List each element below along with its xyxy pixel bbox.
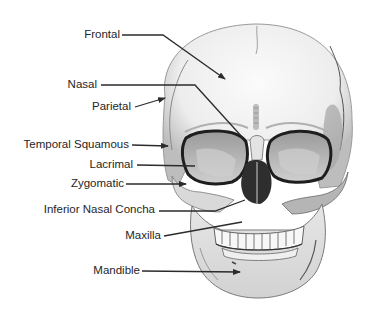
label-frontal: Frontal	[84, 28, 120, 41]
skull-diagram: Frontal Nasal Parietal Temporal Squamous…	[0, 0, 372, 312]
jaw	[190, 204, 325, 298]
leader-parietal	[135, 98, 165, 107]
label-lacrimal: Lacrimal	[90, 158, 133, 171]
label-maxilla: Maxilla	[125, 229, 161, 242]
label-nasal: Nasal	[68, 78, 97, 91]
leader-temporal-squamous	[132, 145, 168, 146]
label-zygomatic: Zygomatic	[71, 177, 124, 190]
label-inferior-nasal-concha: Inferior Nasal Concha	[44, 203, 155, 216]
label-mandible: Mandible	[93, 264, 140, 277]
label-temporal-squamous: Temporal Squamous	[24, 138, 129, 151]
label-parietal: Parietal	[92, 100, 131, 113]
skull-illustration	[0, 0, 372, 312]
